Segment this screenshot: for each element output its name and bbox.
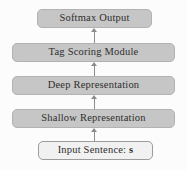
node-label: Deep Representation	[48, 80, 140, 91]
arrow-shaft	[94, 65, 95, 76]
arrow-shaft	[94, 98, 95, 109]
arrow-shaft	[94, 131, 95, 141]
arrow-shaft	[94, 31, 95, 43]
node-deep-representation: Deep Representation	[12, 76, 175, 95]
node-input-sentence: Input Sentence: s	[38, 141, 153, 160]
node-shallow-representation: Shallow Representation	[12, 109, 175, 128]
arrow-up-icon	[91, 128, 98, 141]
arrow-up-icon	[91, 28, 98, 43]
node-label-bold-s: s	[129, 145, 133, 156]
node-label: Input Sentence:	[58, 145, 129, 156]
node-tag-scoring-module: Tag Scoring Module	[12, 43, 175, 62]
node-softmax-output: Softmax Output	[37, 9, 152, 28]
node-label: Shallow Representation	[41, 113, 145, 124]
node-label: Softmax Output	[59, 13, 129, 24]
node-label: Tag Scoring Module	[49, 47, 139, 58]
arrow-up-icon	[91, 62, 98, 76]
architecture-diagram: Softmax Output Tag Scoring Module Deep R…	[0, 0, 187, 170]
arrow-up-icon	[91, 95, 98, 109]
